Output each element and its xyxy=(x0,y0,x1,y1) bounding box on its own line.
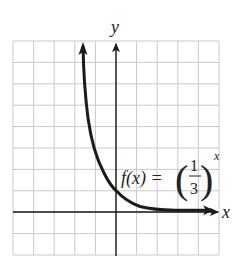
exponent: x xyxy=(213,149,220,163)
fraction-numerator: 1 xyxy=(190,157,198,174)
y-axis-label: y xyxy=(109,17,119,37)
formula-prefix: f(x) = xyxy=(121,168,163,189)
function-label: f(x) = ( 1 3 ) x xyxy=(121,149,220,202)
fraction-denominator: 3 xyxy=(190,180,198,197)
x-axis-label: x xyxy=(221,202,230,222)
left-paren: ( xyxy=(175,157,188,202)
exponential-graph: y x f(x) = ( 1 3 ) x xyxy=(0,0,238,256)
right-paren: ) xyxy=(200,157,213,202)
